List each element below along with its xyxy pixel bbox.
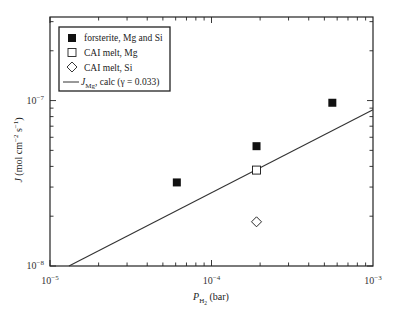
- data-point-forsterite: [328, 99, 336, 107]
- y-label-close: ): [13, 117, 25, 120]
- x-tick-label: 10−4: [203, 274, 221, 286]
- legend-label-cai-mg: CAI melt, Mg: [84, 48, 138, 58]
- legend-label-cai-si: CAI melt, Si: [84, 63, 133, 73]
- data-point-cai-mg: [253, 166, 261, 174]
- x-label-p: P: [192, 291, 199, 302]
- x-tick-label: 10−5: [41, 274, 59, 286]
- calc-line: [69, 110, 373, 266]
- legend-j-rest: , calc (γ = 0.033): [95, 77, 159, 88]
- legend-label-forsterite: forsterite, Mg and Si: [84, 33, 163, 43]
- legend-marker-open-square: [68, 49, 76, 57]
- data-series: [69, 99, 373, 266]
- chart: 10−510−410−310−810−7 forsterite, Mg and …: [0, 0, 397, 319]
- y-tick-label: 10−8: [27, 259, 45, 271]
- data-point-forsterite: [253, 142, 261, 150]
- data-point-forsterite: [173, 178, 181, 186]
- legend: forsterite, Mg and Si CAI melt, Mg CAI m…: [59, 27, 170, 91]
- x-tick-label: 10−3: [364, 274, 382, 286]
- x-label-unit: (bar): [207, 291, 229, 303]
- x-axis-label: PH2 (bar): [192, 291, 229, 306]
- data-point-cai-si: [252, 217, 262, 227]
- y-axis-label: J (mol cm−2 s−1): [12, 117, 25, 182]
- legend-marker-filled-square: [68, 34, 76, 42]
- legend-j-subscript: Mg: [85, 82, 95, 90]
- tick-labels: 10−510−410−310−810−7: [27, 94, 383, 286]
- y-tick-label: 10−7: [27, 94, 45, 106]
- y-label-unit: (mol cm: [13, 142, 25, 178]
